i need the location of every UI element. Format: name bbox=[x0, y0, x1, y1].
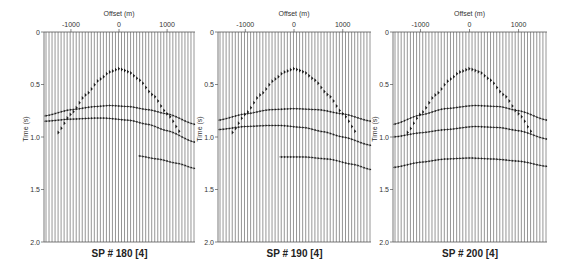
y-tick-label: 0.5 bbox=[379, 81, 389, 88]
panel-title: SP # 200 [4] bbox=[442, 248, 498, 259]
y-tick-label: 1.5 bbox=[204, 186, 214, 193]
x-tick-label: -1000 bbox=[236, 21, 254, 28]
y-tick-label: 0 bbox=[36, 29, 40, 36]
y-tick-label: 0.5 bbox=[204, 81, 214, 88]
panel-title: SP # 180 [4] bbox=[92, 248, 148, 259]
y-axis-label: Time (s) bbox=[196, 116, 204, 141]
x-tick-label: 0 bbox=[292, 21, 296, 28]
x-tick-label: 1000 bbox=[511, 21, 527, 28]
x-tick-label: -1000 bbox=[62, 21, 80, 28]
y-tick-label: 0 bbox=[385, 29, 389, 36]
y-tick-label: 2.0 bbox=[204, 239, 214, 246]
x-tick-label: 0 bbox=[117, 21, 121, 28]
seismic-figure: -100001000Offset (m)00.51.01.52.0Time (s… bbox=[0, 0, 573, 269]
panel-title: SP # 190 [4] bbox=[267, 248, 323, 259]
y-tick-label: 1.0 bbox=[30, 134, 40, 141]
x-tick-label: 1000 bbox=[159, 21, 175, 28]
x-axis-label: Offset (m) bbox=[279, 10, 310, 18]
y-tick-label: 1.0 bbox=[379, 134, 389, 141]
y-tick-label: 2.0 bbox=[379, 239, 389, 246]
seismic-panel-3: -100001000Offset (m)00.51.01.52.0Time (s… bbox=[371, 10, 547, 259]
y-axis-label: Time (s) bbox=[371, 116, 379, 141]
x-tick-label: -1000 bbox=[412, 21, 430, 28]
x-tick-label: 0 bbox=[468, 21, 472, 28]
seismic-panel-2: -100001000Offset (m)00.51.01.52.0Time (s… bbox=[196, 10, 371, 259]
x-axis-label: Offset (m) bbox=[104, 10, 135, 18]
y-axis-label: Time (s) bbox=[22, 116, 30, 141]
seismic-panel-1: -100001000Offset (m)00.51.01.52.0Time (s… bbox=[22, 10, 195, 259]
seismic-panels-svg: -100001000Offset (m)00.51.01.52.0Time (s… bbox=[0, 0, 573, 269]
y-tick-label: 0 bbox=[210, 29, 214, 36]
x-tick-label: 1000 bbox=[335, 21, 351, 28]
trace-lines bbox=[220, 32, 370, 242]
y-tick-label: 1.5 bbox=[30, 186, 40, 193]
trace-lines bbox=[395, 32, 546, 242]
x-axis-label: Offset (m) bbox=[454, 10, 485, 18]
trace-lines bbox=[46, 32, 194, 242]
y-tick-label: 1.5 bbox=[379, 186, 389, 193]
y-tick-label: 2.0 bbox=[30, 239, 40, 246]
y-tick-label: 0.5 bbox=[30, 81, 40, 88]
y-tick-label: 1.0 bbox=[204, 134, 214, 141]
